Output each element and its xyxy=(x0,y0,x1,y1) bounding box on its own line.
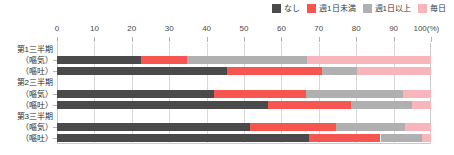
x-axis-tick-label: 90 xyxy=(389,24,398,33)
bar-row xyxy=(57,56,431,64)
y-axis-tick-mark xyxy=(53,138,57,139)
bar-segment xyxy=(405,123,431,131)
bar-row xyxy=(57,123,431,131)
bar-segment xyxy=(57,67,227,75)
bar-segment xyxy=(214,90,306,98)
x-axis-tick-label: 0 xyxy=(55,24,59,33)
legend-swatch-daily xyxy=(418,4,427,13)
bar-segment xyxy=(357,67,431,75)
x-axis-tick-mark xyxy=(57,37,58,42)
bar-segment xyxy=(250,123,336,131)
bar-segment xyxy=(306,90,403,98)
legend-item: なし xyxy=(272,4,300,13)
y-axis-tick-mark xyxy=(53,94,57,95)
legend-label: 週1日未満 xyxy=(319,4,355,13)
y-axis-tick-mark xyxy=(53,127,57,128)
x-axis-tick-mark xyxy=(207,37,208,42)
bar-segment xyxy=(309,134,380,142)
y-axis-labels: 第1三半期（嘔気）（嘔吐）第2三半期（嘔気）（嘔吐）第3三半期（嘔気）（嘔吐） xyxy=(0,43,55,144)
x-axis-tick-mark xyxy=(94,37,95,42)
y-axis-label: （嘔吐） xyxy=(21,100,53,109)
legend-label: なし xyxy=(284,4,300,13)
x-axis-tick-label: 40 xyxy=(202,24,211,33)
y-axis-label: 第3三半期 xyxy=(17,111,53,120)
bar-segment xyxy=(307,56,431,64)
y-axis-label: （嘔吐） xyxy=(21,134,53,143)
bar-segment xyxy=(57,134,309,142)
x-axis-tick-label: 100(%) xyxy=(413,24,439,33)
bar-row xyxy=(57,90,431,98)
bar-segment xyxy=(381,134,422,142)
bar-segment xyxy=(268,101,350,109)
x-axis-tick-mark xyxy=(244,37,245,42)
bar-segment xyxy=(336,123,405,131)
legend-item: 毎日 xyxy=(418,4,446,13)
bar-row xyxy=(57,134,431,142)
y-axis-label: 第2三半期 xyxy=(17,78,53,87)
y-axis-label: （嘔気） xyxy=(21,55,53,64)
x-axis-tick-label: 30 xyxy=(165,24,174,33)
x-axis-tick-mark xyxy=(319,37,320,42)
bar-segment xyxy=(322,67,357,75)
bar-segment xyxy=(227,67,322,75)
legend-item: 週1日未満 xyxy=(307,4,355,13)
legend-swatch-under-once-week xyxy=(307,4,316,13)
bar-segment xyxy=(351,101,413,109)
y-axis-label: （嘔吐） xyxy=(21,67,53,76)
x-axis-tick-label: 60 xyxy=(277,24,286,33)
x-axis-tick-mark xyxy=(394,37,395,42)
x-axis-tick-mark xyxy=(356,37,357,42)
x-axis: 0102030405060708090100(%) xyxy=(57,24,431,43)
y-axis-label: （嘔気） xyxy=(21,123,53,132)
chart-legend: なし 週1日未満 週1日以上 毎日 xyxy=(272,2,446,14)
y-axis-tick-mark xyxy=(53,60,57,61)
y-axis-tick-mark xyxy=(53,71,57,72)
plot-area xyxy=(57,43,431,144)
legend-label: 週1日以上 xyxy=(375,4,411,13)
legend-swatch-nashi xyxy=(272,4,281,13)
legend-label: 毎日 xyxy=(430,4,446,13)
bar-row xyxy=(57,101,431,109)
bar-segment xyxy=(141,56,187,64)
bar-segment xyxy=(422,134,431,142)
y-axis-label: 第1三半期 xyxy=(17,44,53,53)
bar-segment xyxy=(57,56,141,64)
x-axis-tick-label: 10 xyxy=(90,24,99,33)
bar-segment xyxy=(187,56,307,64)
x-axis-tick-label: 50 xyxy=(240,24,249,33)
bar-row xyxy=(57,67,431,75)
x-axis-tick-label: 80 xyxy=(352,24,361,33)
bar-segment xyxy=(57,123,250,131)
x-axis-tick-label: 70 xyxy=(314,24,323,33)
x-axis-tick-label: 20 xyxy=(127,24,136,33)
bar-segment xyxy=(403,90,431,98)
bar-segment xyxy=(412,101,431,109)
x-axis-tick-mark xyxy=(169,37,170,42)
y-axis-label: （嘔気） xyxy=(21,89,53,98)
x-axis-tick-mark xyxy=(431,37,432,42)
legend-swatch-once-week-or-more xyxy=(363,4,372,13)
x-axis-tick-mark xyxy=(281,37,282,42)
bar-segment xyxy=(57,90,214,98)
y-axis-tick-mark xyxy=(53,105,57,106)
legend-item: 週1日以上 xyxy=(363,4,411,13)
x-axis-tick-mark xyxy=(132,37,133,42)
bar-segment xyxy=(57,101,268,109)
